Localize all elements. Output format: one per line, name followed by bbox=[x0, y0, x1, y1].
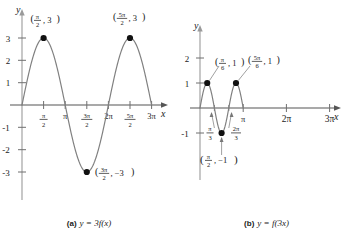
svg-text:6: 6 bbox=[255, 62, 259, 69]
svg-text:, −3: , −3 bbox=[111, 168, 124, 178]
svg-text:5π: 5π bbox=[254, 54, 261, 61]
svg-text:π: π bbox=[208, 125, 212, 132]
svg-text:π: π bbox=[36, 13, 40, 20]
panel-b-leader-arrows bbox=[210, 112, 234, 142]
svg-text:): ) bbox=[277, 54, 280, 66]
panel-a-xtick-3pi-over-2: 3π 2 3π/2 bbox=[81, 112, 92, 128]
panel-a-ytick-2: 2 bbox=[6, 56, 11, 66]
panel-b-axes bbox=[190, 25, 341, 180]
svg-text:): ) bbox=[142, 11, 145, 23]
panel-b-caption: (b)y = f(3x) bbox=[178, 218, 355, 228]
panel-a-ytick-1: 1 bbox=[6, 78, 11, 88]
panel-b-annotation-2pi-over-3: 2π 3 2π/3 bbox=[231, 125, 241, 141]
svg-text:2: 2 bbox=[102, 174, 105, 181]
panel-b-svg: y x 2 1 -1 π 2π 3π bbox=[178, 0, 355, 205]
panel-a-label-point1: ( π 2 , 3 ) (π/2 , 3) bbox=[31, 13, 60, 29]
svg-text:): ) bbox=[57, 13, 60, 25]
svg-text:6: 6 bbox=[221, 64, 225, 71]
svg-text:(: ( bbox=[200, 153, 204, 166]
svg-text:π: π bbox=[207, 153, 211, 160]
panel-a-xtick-labels: π 2 π/2 π 3π 2 3π/2 2π 5π 2 5π/2 bbox=[40, 111, 157, 128]
panel-a-point-max1 bbox=[41, 35, 47, 41]
svg-text:): ) bbox=[241, 56, 244, 68]
svg-text:, −1: , −1 bbox=[214, 155, 227, 165]
svg-text:2π: 2π bbox=[233, 125, 240, 132]
panel-a-point-max2 bbox=[127, 35, 133, 41]
panel-b-annotation-pi-over-3: π 3 π/3 bbox=[207, 125, 214, 141]
panel-b-leader-lines bbox=[210, 66, 251, 155]
panel-a-xtick-3pi: 3π bbox=[147, 111, 156, 121]
panel-a-label-point2: ( 5π 2 , 3 ) (5π/2 , 3) bbox=[113, 11, 145, 27]
svg-text:(: ( bbox=[31, 13, 35, 25]
panel-a-x-axis-label: x bbox=[160, 108, 166, 119]
svg-text:3π: 3π bbox=[101, 166, 108, 173]
panel-a-point-min bbox=[84, 169, 90, 175]
svg-text:, 1: , 1 bbox=[264, 56, 273, 66]
svg-text:, 3: , 3 bbox=[129, 13, 138, 23]
svg-text:5π: 5π bbox=[127, 112, 134, 119]
panel-a-y-axis-label: y bbox=[15, 4, 21, 15]
svg-text:2: 2 bbox=[207, 161, 210, 168]
panel-b-xtick-3pi: 3π bbox=[325, 114, 335, 124]
panel-b-ytick-neg1: -1 bbox=[181, 129, 189, 139]
x-axis-arrow bbox=[334, 105, 341, 110]
svg-text:): ) bbox=[131, 166, 134, 178]
panel-a-caption-tag: (a) bbox=[67, 219, 77, 228]
svg-text:2: 2 bbox=[85, 121, 88, 128]
panel-b-xtick-pi: π bbox=[241, 114, 246, 124]
panel-a-ytick-neg3: -3 bbox=[2, 168, 10, 178]
panel-b-caption-equation: y = f(3x) bbox=[257, 218, 289, 228]
panel-b-label-point1: ( π 6 , 1 ) (π/6 , 1) bbox=[215, 56, 244, 72]
panel-a-caption-equation: y = 3f(x) bbox=[80, 218, 112, 228]
panel-a-caption: (a)y = 3f(x) bbox=[0, 218, 178, 228]
svg-text:3: 3 bbox=[234, 134, 237, 141]
panel-a-label-point3: ( 3π 2 , −3 ) (3π/2 , -3) bbox=[95, 166, 134, 182]
svg-text:3: 3 bbox=[208, 134, 211, 141]
panel-b-point-max2 bbox=[233, 80, 239, 86]
panel-b-point-min bbox=[219, 130, 225, 136]
panel-b-ytick-1: 1 bbox=[185, 79, 190, 89]
x-axis-arrow bbox=[161, 102, 168, 107]
svg-text:3π: 3π bbox=[84, 112, 91, 119]
panel-a-ytick-3: 3 bbox=[6, 34, 11, 44]
svg-text:): ) bbox=[234, 153, 238, 166]
panel-a-ytick-neg2: -2 bbox=[2, 145, 10, 155]
svg-text:π: π bbox=[42, 112, 46, 119]
panel-b-point-max1 bbox=[204, 80, 210, 86]
svg-text:(: ( bbox=[215, 56, 219, 68]
svg-text:2: 2 bbox=[42, 121, 45, 128]
figure-container: y x 3 2 1 -1 -2 -3 bbox=[0, 0, 355, 234]
panel-a-svg: y x 3 2 1 -1 -2 -3 bbox=[0, 0, 178, 205]
svg-text:π: π bbox=[221, 56, 225, 63]
svg-text:(: ( bbox=[248, 54, 252, 66]
panel-a-ytick-neg1: -1 bbox=[2, 123, 10, 133]
svg-text:, 3: , 3 bbox=[43, 15, 52, 25]
panel-b-caption-tag: (b) bbox=[244, 219, 254, 228]
panel-b-y-axis-label: y bbox=[193, 20, 199, 31]
svg-text:(: ( bbox=[113, 11, 117, 23]
panel-b-graph: y x 2 1 -1 π 2π 3π bbox=[178, 0, 355, 234]
svg-text:2: 2 bbox=[120, 19, 123, 26]
panel-b-label-point2: ( 5π 6 , 1 ) (5π/6 , 1) bbox=[248, 54, 280, 70]
panel-b-ytick-2: 2 bbox=[185, 54, 190, 64]
svg-text:, 1: , 1 bbox=[228, 58, 237, 68]
panel-a-xtick-5pi-over-2: 5π 2 5π/2 bbox=[125, 112, 136, 128]
svg-text:5π: 5π bbox=[119, 11, 126, 18]
panel-b-label-point3: ( π 2 , −1 ) (π/2 , -1) bbox=[200, 153, 238, 169]
panel-a-xtick-pi-over-2: π 2 π/2 bbox=[40, 112, 48, 128]
svg-text:2: 2 bbox=[36, 21, 39, 28]
panel-a-graph: y x 3 2 1 -1 -2 -3 bbox=[0, 0, 178, 234]
svg-text:(: ( bbox=[95, 166, 99, 178]
panel-b-xtick-2pi: 2π bbox=[282, 114, 292, 124]
svg-text:2: 2 bbox=[128, 121, 131, 128]
